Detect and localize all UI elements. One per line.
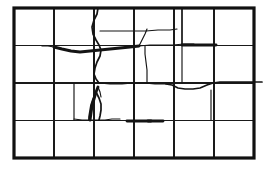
figure-root bbox=[0, 0, 269, 171]
cracked-panel-diagram bbox=[0, 0, 269, 171]
